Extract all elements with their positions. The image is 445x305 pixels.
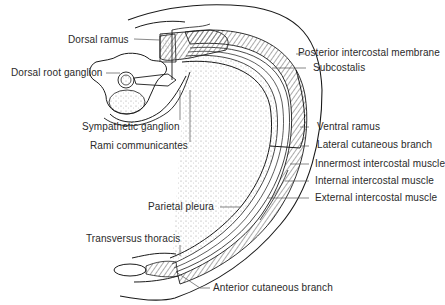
label-dorsal-root-ganglion: Dorsal root ganglion xyxy=(11,67,103,79)
label-internal-intercostal-muscle: Internal intercostal muscle xyxy=(315,175,434,187)
sternum xyxy=(114,264,146,276)
label-transversus-thoracis: Transversus thoracis xyxy=(86,233,180,245)
label-ventral-ramus: Ventral ramus xyxy=(317,121,380,133)
label-posterior-intercostal-membrane: Posterior intercostal membrane xyxy=(298,47,440,59)
label-dorsal-ramus: Dorsal ramus xyxy=(68,34,129,46)
label-rami-communicantes: Rami communicantes xyxy=(90,140,188,152)
label-anterior-cutaneous-branch: Anterior cutaneous branch xyxy=(213,282,333,294)
label-sympathetic-ganglion: Sympathetic ganglion xyxy=(82,121,180,133)
label-innermost-intercostal-muscle: Innermost intercostal muscle xyxy=(315,158,445,170)
label-parietal-pleura: Parietal pleura xyxy=(148,201,214,213)
label-external-intercostal-muscle: External intercostal muscle xyxy=(315,192,437,204)
label-lateral-cutaneous-branch: Lateral cutaneous branch xyxy=(317,139,432,151)
label-subcostalis: Subcostalis xyxy=(313,62,365,74)
